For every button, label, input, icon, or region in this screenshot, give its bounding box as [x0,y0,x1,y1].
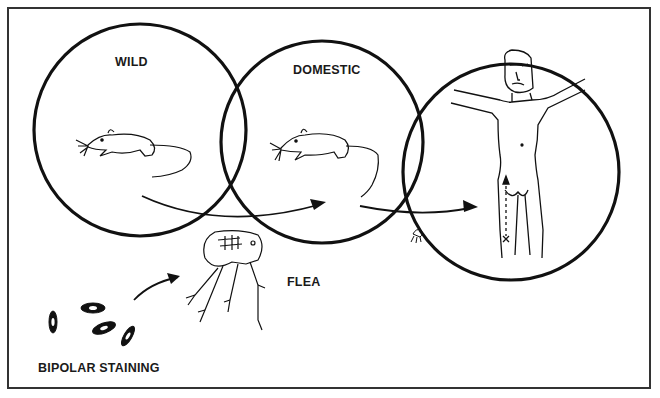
flea-label: FLEA [287,275,320,289]
domestic-rat-icon [270,129,378,197]
wild-to-domestic-arrow [142,196,318,217]
bipolar-staining-label: BIPOLAR STAINING [38,361,160,375]
flea-icon [186,231,265,330]
bipolar-bacilli-icon [49,303,137,348]
human-circle [403,64,619,280]
wild-rat-icon [76,130,191,177]
human-figure-icon [451,50,585,258]
diagram-canvas [0,0,660,398]
domestic-label: DOMESTIC [293,63,361,77]
wild-label: WILD [115,55,148,69]
domestic-to-human-arrow [360,206,470,213]
